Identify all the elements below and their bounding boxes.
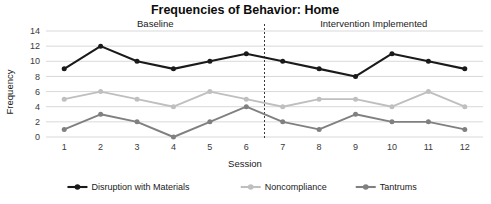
legend-marker-swatch [363,184,369,190]
y-tick-label: 10 [30,56,40,66]
data-point-marker [280,119,285,124]
data-point-marker [244,51,249,56]
data-point-marker [135,97,140,102]
data-point-marker [426,119,431,124]
chart-legend: Disruption with MaterialsNoncomplianceTa… [67,182,417,192]
y-axis-tick-labels: 02468101214 [30,26,40,142]
data-point-marker [98,89,103,94]
data-point-marker [98,44,103,49]
data-point-marker [353,97,358,102]
x-axis-tick-labels: 123456789101112 [62,142,470,152]
legend-label: Tantrums [380,182,418,192]
x-tick-label: 3 [135,142,140,152]
data-point-marker [317,66,322,71]
y-tick-label: 14 [30,26,40,36]
y-tick-label: 12 [30,41,40,51]
x-tick-label: 6 [244,142,249,152]
data-point-marker [244,97,249,102]
data-point-marker [280,104,285,109]
data-point-marker [389,51,394,56]
behavior-frequency-line-chart: Frequencies of Behavior: Home BaselineIn… [0,0,491,204]
legend-item: Noncompliance [241,182,327,192]
data-point-marker [62,66,67,71]
legend-item: Tantrums [356,182,418,192]
data-point-marker [62,97,67,102]
x-tick-label: 12 [460,142,470,152]
data-point-marker [171,66,176,71]
y-tick-label: 4 [35,102,40,112]
chart-title: Frequencies of Behavior: Home [151,3,339,17]
phase-label: Intervention Implemented [320,18,427,29]
chart-container: Frequencies of Behavior: Home BaselineIn… [0,0,491,204]
data-point-marker [207,119,212,124]
data-point-marker [426,59,431,64]
legend-label: Disruption with Materials [91,182,190,192]
legend-marker-swatch [248,184,254,190]
data-point-marker [389,119,394,124]
data-point-marker [171,104,176,109]
data-point-marker [389,104,394,109]
y-tick-label: 2 [35,117,40,127]
legend-label: Noncompliance [265,182,327,192]
data-point-marker [317,127,322,132]
x-tick-label: 10 [387,142,397,152]
y-tick-label: 6 [35,87,40,97]
y-tick-label: 0 [35,132,40,142]
data-point-marker [317,97,322,102]
legend-item: Disruption with Materials [67,182,190,192]
data-point-marker [462,66,467,71]
data-point-marker [244,104,249,109]
x-tick-label: 1 [62,142,67,152]
phase-label: Baseline [137,18,173,29]
data-point-marker [353,112,358,117]
y-tick-label: 8 [35,72,40,82]
x-tick-label: 7 [280,142,285,152]
x-tick-label: 4 [171,142,176,152]
x-tick-label: 8 [317,142,322,152]
data-point-marker [462,127,467,132]
x-tick-label: 2 [98,142,103,152]
y-axis-title: Frequency [4,69,15,114]
x-tick-label: 9 [353,142,358,152]
data-point-marker [135,119,140,124]
phase-label-group: BaselineIntervention Implemented [137,18,427,29]
data-point-marker [426,89,431,94]
data-point-marker [62,127,67,132]
data-point-marker [207,59,212,64]
data-point-marker [462,104,467,109]
x-tick-label: 5 [207,142,212,152]
x-axis-title: Session [228,158,262,169]
data-point-marker [353,74,358,79]
data-point-marker [135,59,140,64]
data-point-marker [280,59,285,64]
data-point-marker [171,135,176,140]
x-tick-label: 11 [424,142,433,152]
data-point-marker [207,89,212,94]
legend-marker-swatch [75,184,81,190]
data-point-marker [98,112,103,117]
